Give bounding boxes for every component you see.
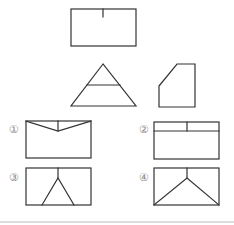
three-view-diagram xyxy=(0,0,234,225)
option-3-label[interactable]: ③ xyxy=(9,172,19,183)
option-4-figure[interactable] xyxy=(154,168,219,205)
plan-view-triangle xyxy=(71,64,136,106)
option-4-label[interactable]: ④ xyxy=(139,172,149,183)
option-1-figure[interactable] xyxy=(26,121,91,158)
front-view-rectangle xyxy=(71,9,136,46)
side-view-pentagon xyxy=(159,64,195,107)
option-3-figure[interactable] xyxy=(26,168,91,205)
option-2-label[interactable]: ② xyxy=(139,124,149,135)
option-2-figure[interactable] xyxy=(154,122,219,159)
bottom-divider xyxy=(0,221,234,223)
option-1-label[interactable]: ① xyxy=(9,124,19,135)
